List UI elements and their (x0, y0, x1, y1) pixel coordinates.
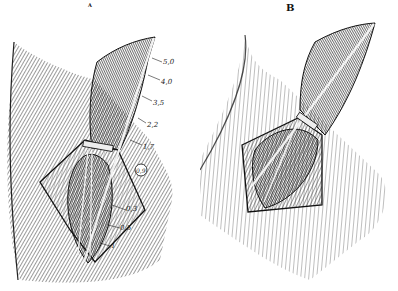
illustration-b (200, 0, 398, 291)
measurement-label: 5,0 (163, 59, 174, 66)
measurement-label: 0,3 (126, 206, 137, 213)
measurement-label: 4,0 (161, 79, 172, 86)
measurement-label: 1,7 (143, 144, 154, 151)
panel-b: B (200, 0, 398, 291)
panel-a: A (0, 0, 200, 291)
measurement-label-circled: 0,9 (136, 167, 146, 174)
measurement-label: 2,2 (147, 122, 158, 129)
illustration-a (0, 0, 200, 291)
measurement-label: 3,5 (153, 100, 164, 107)
measurement-label: 1 (111, 243, 115, 250)
measurement-label: 0,5 (120, 225, 131, 232)
